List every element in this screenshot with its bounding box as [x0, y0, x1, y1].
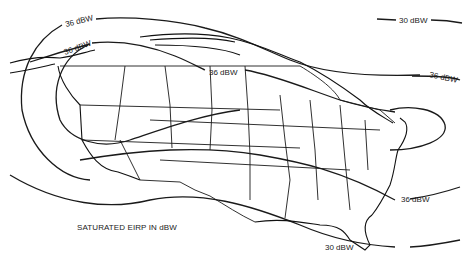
contour-label-36-east: 36 dBW [429, 70, 459, 85]
eirp-coverage-map: 36 dBW 36 dBW 36 dBW 36 dBW 36 dBW 30 dB… [0, 0, 472, 263]
contour-label-36-southeast: 36 dBW [401, 195, 430, 204]
contour-label-30-south: 30 dBW [325, 243, 354, 252]
contour-label-36-north: 36 dBW [64, 13, 94, 29]
contour-label-36-center: 36 dBW [209, 68, 238, 77]
geographic-borders [10, 34, 407, 250]
contour-labels: 36 dBW 36 dBW 36 dBW 36 dBW 36 dBW 30 dB… [63, 13, 459, 252]
map-caption: SATURATED EIRP IN dBW [77, 223, 177, 232]
contour-label-30-top: 30 dBW [399, 16, 428, 25]
